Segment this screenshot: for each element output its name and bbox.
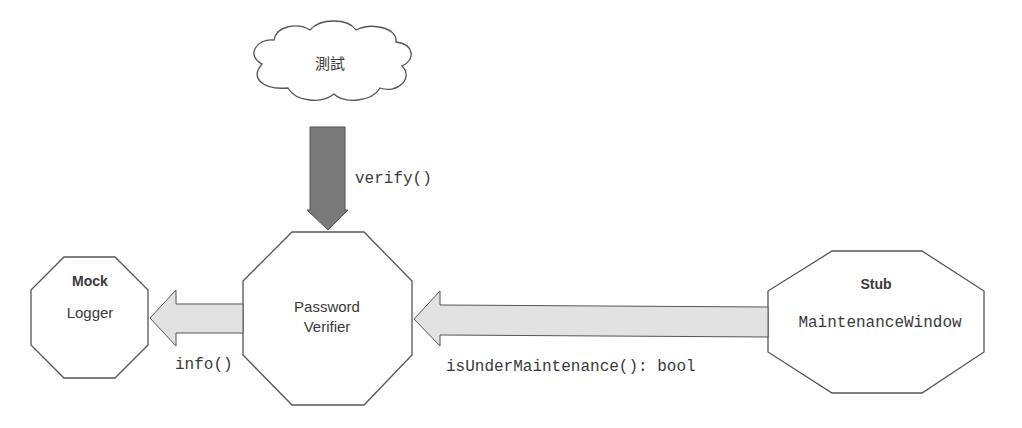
stub-name: MaintenanceWindow [798,314,961,332]
stub-stereotype: Stub [860,276,891,292]
info-arrow [150,290,243,346]
maintenance-arrow [414,291,768,346]
verifier-line1: Password [294,297,360,317]
mock-name: Logger [67,304,114,321]
verify-label: verify() [355,170,432,188]
cloud-label: 測試 [315,52,345,73]
info-label: info() [175,356,233,374]
mock-stereotype: Mock [72,273,108,289]
verifier-line2: Verifier [294,317,360,337]
verifier-label: Password Verifier [294,297,360,337]
verify-arrow [307,127,348,230]
maintenance-label: isUnderMaintenance(): bool [446,358,696,376]
